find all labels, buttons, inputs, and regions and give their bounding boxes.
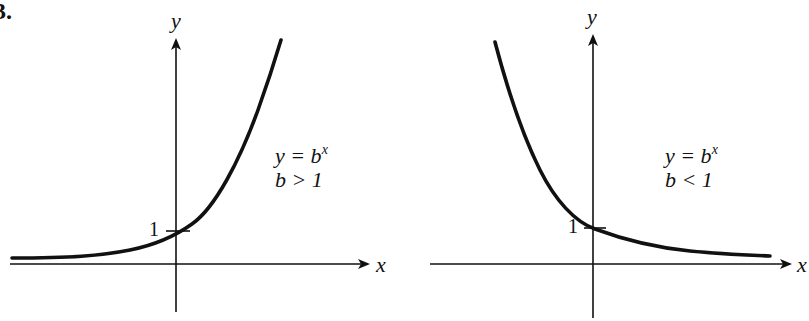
left-intercept-label: 1 [149, 218, 159, 241]
right-intercept-label: 1 [568, 215, 578, 238]
right-condition: b < 1 [665, 166, 713, 194]
right-equation-exponent: x [712, 142, 718, 157]
problem-number: 3. [0, 0, 12, 25]
right-graph [430, 36, 790, 318]
left-growth-curve [12, 40, 281, 258]
left-y-axis-label: y [171, 8, 181, 34]
left-equation: y = bx [275, 136, 328, 170]
right-y-axis-label: y [587, 4, 597, 30]
right-equation: y = bx [665, 136, 718, 170]
left-x-axis-label: x [376, 252, 386, 278]
left-equation-exponent: x [322, 142, 328, 157]
left-condition: b > 1 [275, 166, 323, 194]
right-equation-base: y = b [665, 143, 712, 168]
right-x-axis-label: x [797, 252, 807, 278]
right-decay-curve [495, 42, 770, 256]
left-equation-base: y = b [275, 143, 322, 168]
